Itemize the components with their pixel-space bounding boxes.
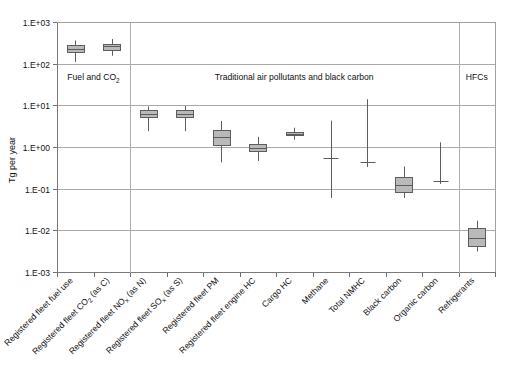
box-whisker-registered-fleet-fuel-use xyxy=(68,40,85,61)
y-axis-ticks: 1.E+031.E+021.E+011.E+001.E-011.E-021.E-… xyxy=(23,18,57,278)
y-tick-label: 1.E+00 xyxy=(23,143,50,153)
box-whisker-registered-fleet-engine-hc xyxy=(250,137,267,161)
box-whisker-total-nmhc xyxy=(361,99,376,167)
box-whisker-methane xyxy=(324,121,339,198)
x-axis-label: Total NMHC xyxy=(327,275,367,315)
y-tick-label: 1.E-03 xyxy=(25,268,50,278)
box-whisker-organic-carbon xyxy=(434,142,449,184)
x-axis-label: Registered fleet engine HC xyxy=(177,275,257,355)
x-axis-label: Registered fleet fuel use xyxy=(2,275,75,348)
chart-container: 1.E+031.E+021.E+011.E+001.E-011.E-021.E-… xyxy=(0,0,509,392)
annotation-label: HFCs xyxy=(466,72,488,82)
x-axis-label: Cargo HC xyxy=(260,275,294,309)
x-axis-label: Refrigerants xyxy=(436,275,476,315)
y-axis-title-text: Tg per year xyxy=(7,137,17,183)
box-whisker-registered-fleet-sox-as-s xyxy=(177,106,194,131)
x-axis-labels: Registered fleet fuel useRegistered flee… xyxy=(2,275,476,357)
annotation-label: Traditional air pollutants and black car… xyxy=(215,72,374,82)
x-axis-ticks xyxy=(58,273,496,277)
y-axis-title: Tg per year xyxy=(7,137,17,183)
y-tick-label: 1.E-02 xyxy=(25,226,50,236)
box-whisker-registered-fleet-co2-as-c xyxy=(104,39,121,56)
gridlines xyxy=(57,23,495,273)
box-whisker-registered-fleet-nox-as-n xyxy=(141,106,158,131)
box-whisker-registered-fleet-pm xyxy=(214,121,231,162)
x-axis-label: Methane xyxy=(299,275,330,306)
box-body xyxy=(104,45,121,51)
annotation-label: Fuel and CO2 xyxy=(67,72,120,84)
y-tick-label: 1.E-01 xyxy=(25,185,50,195)
box-whisker-refrigerants xyxy=(469,221,486,252)
box-body xyxy=(469,229,486,247)
y-tick-label: 1.E+02 xyxy=(23,60,50,70)
box-whisker-cargo-hc xyxy=(287,128,304,140)
y-tick-label: 1.E+01 xyxy=(23,101,50,111)
box-whisker-black-carbon xyxy=(396,167,413,198)
y-tick-label: 1.E+03 xyxy=(23,18,50,28)
log-box-whisker-chart: 1.E+031.E+021.E+011.E+001.E-011.E-021.E-… xyxy=(0,0,509,392)
